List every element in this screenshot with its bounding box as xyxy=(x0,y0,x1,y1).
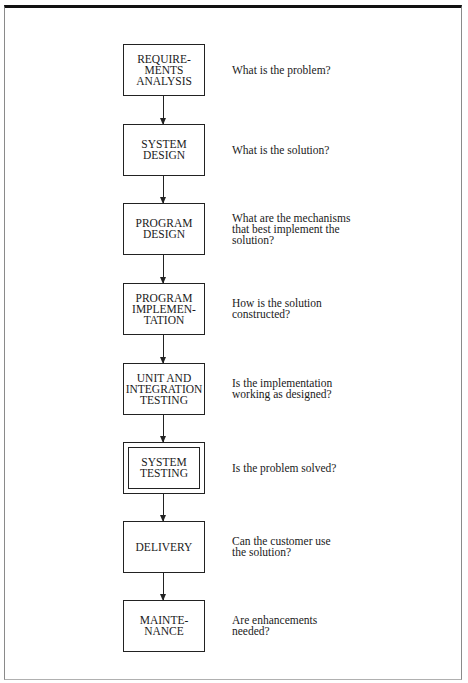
arrow-down-icon xyxy=(163,335,164,363)
question-unit-integration-testing: Is the implementation working as designe… xyxy=(232,363,392,415)
question-delivery: Can the customer use the solution? xyxy=(232,521,392,573)
question-program-implementation: How is the solution constructed? xyxy=(232,283,392,335)
question-program-design: What are the mechanisms that best implem… xyxy=(232,203,392,255)
question-requirements-analysis: What is the problem? xyxy=(232,44,392,96)
arrow-down-icon xyxy=(163,494,164,521)
stage-label: UNIT AND INTEGRATION TESTING xyxy=(126,373,203,406)
arrow-down-icon xyxy=(163,176,164,203)
stage-program-implementation: PROGRAM IMPLEMEN- TATION xyxy=(123,283,205,335)
stage-requirements-analysis: REQUIRE- MENTS ANALYSIS xyxy=(123,44,205,96)
stage-unit-integration-testing: UNIT AND INTEGRATION TESTING xyxy=(123,363,205,415)
arrow-down-icon xyxy=(163,96,164,124)
stage-program-design: PROGRAM DESIGN xyxy=(123,203,205,255)
stage-label: DELIVERY xyxy=(136,542,193,553)
stage-label: PROGRAM IMPLEMEN- TATION xyxy=(132,293,196,326)
stage-system-design: SYSTEM DESIGN xyxy=(123,124,205,176)
stage-label: SYSTEM TESTING xyxy=(140,457,188,479)
stage-label: PROGRAM DESIGN xyxy=(136,218,193,240)
stage-label: SYSTEM DESIGN xyxy=(141,139,186,161)
stage-delivery: DELIVERY xyxy=(123,521,205,573)
stage-system-testing-inner-border: SYSTEM TESTING xyxy=(128,447,200,489)
arrow-down-icon xyxy=(163,415,164,442)
arrow-down-icon xyxy=(163,255,164,283)
stage-label: MAINTE- NANCE xyxy=(140,615,189,637)
stage-system-testing: SYSTEM TESTING xyxy=(123,442,205,494)
question-maintenance: Are enhancements needed? xyxy=(232,600,392,652)
figure-frame xyxy=(4,5,462,680)
stage-maintenance: MAINTE- NANCE xyxy=(123,600,205,652)
stage-label: REQUIRE- MENTS ANALYSIS xyxy=(136,54,192,87)
question-system-testing: Is the problem solved? xyxy=(232,442,392,494)
arrow-down-icon xyxy=(163,573,164,600)
question-system-design: What is the solution? xyxy=(232,124,392,176)
